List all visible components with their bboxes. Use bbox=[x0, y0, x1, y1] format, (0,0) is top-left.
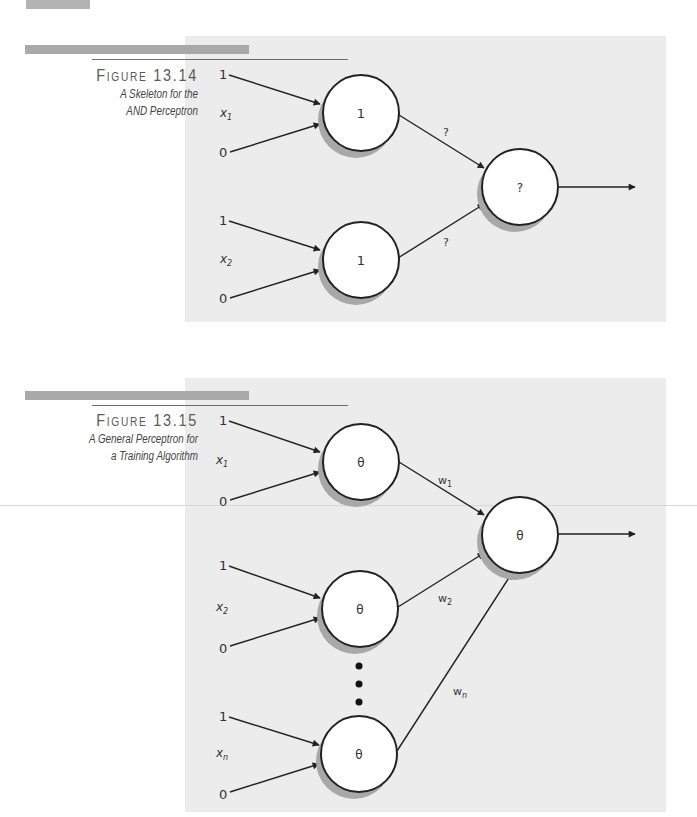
node-label: θ bbox=[356, 603, 363, 617]
input-bottom-value: 0 bbox=[219, 641, 227, 656]
weight-label-w1: w1 bbox=[438, 474, 452, 489]
input-group-x2: 1 x2 0 1 bbox=[219, 213, 399, 306]
weight-label-2: ? bbox=[443, 236, 449, 249]
input-group-xn: 1 xn 0 θ bbox=[215, 709, 397, 802]
weight-label-w2: w2 bbox=[438, 592, 452, 607]
input-bottom-value: 0 bbox=[219, 145, 227, 160]
input-label: x2 bbox=[219, 252, 232, 268]
node-label: θ bbox=[357, 456, 364, 470]
input-top-value: 1 bbox=[219, 213, 227, 228]
figure-13-15-diagram: 1 x1 0 θ 1 x2 0 θ 1 bbox=[215, 413, 635, 802]
weight-label-1: ? bbox=[443, 126, 449, 139]
input-bottom-value: 0 bbox=[219, 494, 227, 509]
input-top-value: 1 bbox=[219, 709, 227, 724]
input-group-x1: 1 x1 0 θ bbox=[215, 413, 399, 509]
weight-label-wn: wn bbox=[453, 685, 467, 700]
input-group-x1: 1 x1 0 1 bbox=[219, 67, 399, 160]
input-label: x2 bbox=[215, 600, 228, 616]
input-top-value: 1 bbox=[219, 558, 227, 573]
input-top-value: 1 bbox=[219, 413, 227, 428]
input-label: x1 bbox=[215, 453, 228, 469]
input-group-x2: 1 x2 0 θ bbox=[215, 558, 398, 656]
input-top-value: 1 bbox=[219, 67, 227, 82]
input-label: xn bbox=[215, 746, 228, 762]
output-node-label: ? bbox=[517, 181, 523, 195]
perceptron-diagrams: 1 x1 0 1 1 x2 0 1 ? ? ? bbox=[0, 0, 697, 817]
node-label: θ bbox=[355, 748, 362, 762]
input-bottom-value: 0 bbox=[219, 291, 227, 306]
output-node-label: θ bbox=[516, 529, 523, 543]
input-label: x1 bbox=[219, 106, 232, 122]
ellipsis-dots bbox=[356, 663, 363, 706]
node-label: 1 bbox=[357, 106, 365, 121]
node-label: 1 bbox=[357, 253, 365, 268]
figure-13-14-diagram: 1 x1 0 1 1 x2 0 1 ? ? ? bbox=[219, 67, 635, 306]
input-bottom-value: 0 bbox=[219, 787, 227, 802]
